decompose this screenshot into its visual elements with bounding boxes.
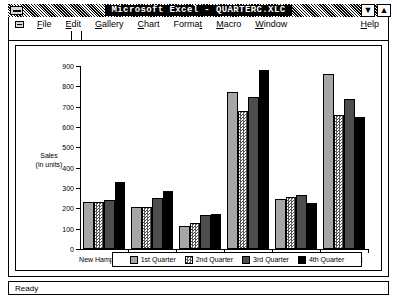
minimize-icon: ▼ [364,6,373,15]
bar-1[interactable] [83,202,94,249]
bar-1[interactable] [131,207,142,249]
menu-item-format[interactable]: Format [167,19,210,29]
legend-entry-q4: 4th Quarter [298,256,344,264]
bar-3[interactable] [344,99,355,249]
menu-item-macro[interactable]: Macro [209,19,248,29]
y-tick-label-400: 400 [62,164,74,171]
bar-2[interactable] [190,223,201,249]
bar-3[interactable] [104,200,115,249]
bar-2[interactable] [142,207,153,249]
excel-window: Microsoft Excel - QUARTERC.XLC ▼ ▲ File … [0,0,397,301]
bar-2[interactable] [238,111,249,249]
legend-swatch-q1 [130,256,138,264]
system-menu-icon[interactable] [10,6,23,15]
y-tick-label-wrap-0: 0 [80,249,85,250]
menu-item-window[interactable]: Window [248,19,294,29]
y-tick-label-0: 0 [70,246,74,253]
status-bar: Ready [8,281,389,295]
bar-4[interactable] [307,203,318,249]
bar-3[interactable] [200,215,211,249]
bar-4[interactable] [259,70,270,249]
legend-label-q3: 3rd Quarter [253,256,289,263]
maximize-button[interactable]: ▲ [377,4,391,17]
legend-label-q1: 1st Quarter [141,256,176,263]
bar-1[interactable] [275,199,286,249]
bar-group[interactable] [179,67,221,249]
y-tick-label-700: 700 [62,103,74,110]
bar-group[interactable] [275,67,317,249]
legend-entry-q3: 3rd Quarter [242,256,289,264]
bar-2[interactable] [94,202,105,249]
bar-group[interactable] [83,67,125,249]
menu-item-gallery[interactable]: Gallery [88,19,131,29]
legend-entry-q2: 2nd Quarter [185,256,233,264]
bar-group[interactable] [323,67,365,249]
bar-4[interactable] [163,191,174,249]
legend-swatch-q3 [242,256,250,264]
bar-3[interactable] [296,195,307,249]
client-area: Sales (in units) 01002003004005006007008… [8,31,389,277]
status-text: Ready [9,284,38,293]
chart-document[interactable]: Sales (in units) 01002003004005006007008… [15,45,382,271]
y-tick-label-800: 800 [62,83,74,90]
y-axis-line [80,66,81,250]
bar-2[interactable] [286,197,297,249]
menu-bar: File Edit Gallery Chart Format Macro Win… [8,17,389,31]
bar-1[interactable] [323,74,334,249]
title-bar: Microsoft Excel - QUARTERC.XLC [8,4,389,17]
maximize-icon: ▲ [380,6,389,15]
legend-label-q4: 4th Quarter [309,256,344,263]
bar-1[interactable] [179,226,190,249]
bar-group[interactable] [227,67,269,249]
menu-item-help[interactable]: Help [353,19,388,29]
plot-area: 0100200300400500600700800900 New Hampshi… [80,66,368,250]
legend-swatch-q2 [185,256,193,264]
bar-3[interactable] [152,198,163,249]
legend-swatch-q4 [298,256,306,264]
bar-4[interactable] [211,214,222,249]
menu-item-file[interactable]: File [30,19,59,29]
y-axis-title-line1: Sales [26,151,72,160]
document-strip [9,31,388,41]
strip-divider-1 [71,31,72,40]
legend-label-q2: 2nd Quarter [196,256,233,263]
y-tick-label-200: 200 [62,205,74,212]
menu-item-edit[interactable]: Edit [59,19,89,29]
minimize-button[interactable]: ▼ [361,4,375,17]
legend-entry-q1: 1st Quarter [130,256,176,264]
bar-4[interactable] [355,117,366,249]
y-tick-label-900: 900 [62,63,74,70]
y-tick-label-300: 300 [62,185,74,192]
x-tick [368,249,369,253]
bar-2[interactable] [334,115,345,249]
window-title: Microsoft Excel - QUARTERC.XLC [105,5,291,16]
bar-4[interactable] [115,182,126,249]
y-tick-label-600: 600 [62,124,74,131]
bar-group[interactable] [131,67,173,249]
document-system-menu-icon[interactable] [15,21,24,28]
menu-item-chart[interactable]: Chart [131,19,167,29]
strip-divider-2 [81,31,82,40]
chart-legend[interactable]: 1st Quarter 2nd Quarter 3rd Quarter 4th … [112,252,362,267]
bar-3[interactable] [248,97,259,250]
y-tick-label-100: 100 [62,225,74,232]
bar-1[interactable] [227,92,238,249]
y-tick-label-500: 500 [62,144,74,151]
